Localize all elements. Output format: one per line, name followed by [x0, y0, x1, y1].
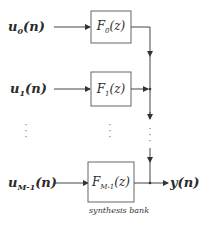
ellipsis-bus: ··· — [147, 126, 153, 144]
ellipsis-filters: ··· — [107, 122, 113, 140]
filter-label-0: F0(z) — [91, 20, 131, 38]
filter-label-m1: FM-1(z) — [88, 176, 134, 194]
input-label-0: u0(n) — [8, 20, 45, 38]
filter-label-1: F1(z) — [91, 83, 131, 101]
output-label: y(n) — [170, 176, 199, 190]
input-label-m1: uM-1(n) — [8, 176, 57, 194]
caption: synthesis bank — [89, 206, 149, 215]
ellipsis-inputs: ··· — [23, 122, 29, 140]
input-label-1: u1(n) — [10, 82, 47, 100]
